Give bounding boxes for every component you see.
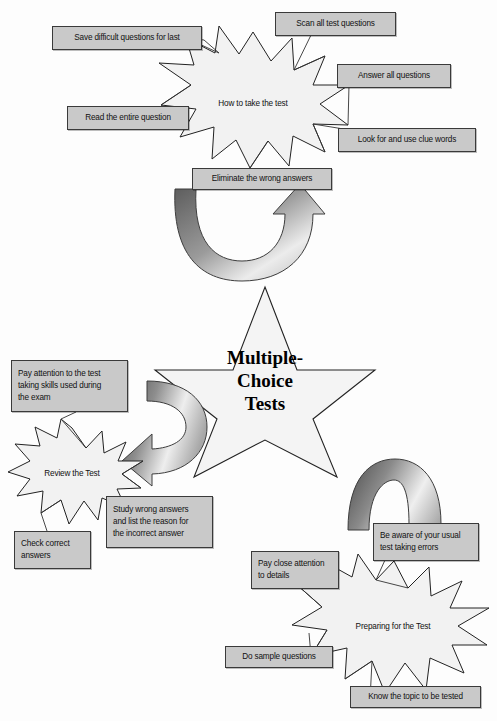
box-line-1: Be aware of your usual (380, 530, 460, 542)
box-line-1: Pay close attention (258, 558, 324, 570)
arrow-center-to-review (122, 381, 207, 486)
burst-label-preparing-for-the-test: Preparing for the Test (356, 622, 431, 631)
center-star-line1: Multiple- (227, 346, 303, 369)
box-line-1: Pay attention to the test (18, 368, 100, 380)
box-line-3: the exam (18, 392, 50, 404)
box-study-wrong-answers[interactable]: Study wrong answers and list the reason … (106, 496, 213, 548)
box-know-the-topic-to-be-tested[interactable]: Know the topic to be tested (350, 686, 481, 708)
box-pay-close-attention-to-details[interactable]: Pay close attention to details (251, 551, 339, 589)
burst-label-review-the-test: Review the Test (44, 469, 99, 478)
diagram-canvas: How to take the test Multiple- Choice Te… (0, 0, 497, 721)
box-line-1: Study wrong answers (113, 504, 188, 516)
burst-label-how-to-take-the-test: How to take the test (218, 99, 287, 108)
box-do-sample-questions[interactable]: Do sample questions (225, 646, 333, 668)
box-answer-all-questions[interactable]: Answer all questions (337, 64, 451, 88)
center-star-title: Multiple- Choice Tests (227, 346, 303, 415)
box-scan-all-test-questions[interactable]: Scan all test questions (275, 12, 396, 36)
box-read-the-entire-question[interactable]: Read the entire question (67, 106, 189, 130)
box-check-correct-answers[interactable]: Check correct answers (14, 531, 91, 569)
center-star-line3: Tests (227, 392, 303, 415)
box-line-2: to details (258, 570, 289, 582)
arrow-eliminate-up (175, 184, 325, 281)
center-star-line2: Choice (227, 369, 303, 392)
box-line-3: the incorrect answer (113, 528, 184, 540)
box-line-1: Check correct (21, 538, 70, 550)
box-line-2: answers (21, 550, 50, 562)
box-line-2: test taking errors (380, 542, 438, 554)
box-eliminate-the-wrong-answers[interactable]: Eliminate the wrong answers (192, 168, 332, 190)
box-line-2: and list the reason for (113, 516, 188, 528)
box-pay-attention-to-test-taking-skills[interactable]: Pay attention to the test taking skills … (11, 360, 128, 412)
box-save-difficult-questions[interactable]: Save difficult questions for last (52, 26, 202, 50)
box-line-2: taking skills used during (18, 380, 101, 392)
box-look-for-clue-words[interactable]: Look for and use clue words (338, 128, 476, 152)
box-be-aware-of-usual-errors[interactable]: Be aware of your usual test taking error… (373, 523, 479, 561)
